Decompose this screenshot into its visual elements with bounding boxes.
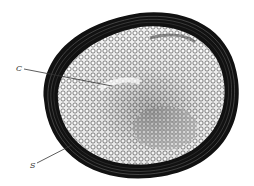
label-s-leader xyxy=(37,145,72,163)
cross-section-figure xyxy=(0,0,254,186)
label-c: C xyxy=(16,65,22,73)
label-s: S xyxy=(30,162,35,170)
